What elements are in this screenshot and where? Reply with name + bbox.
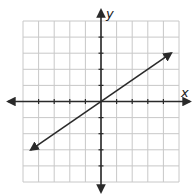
x-axis-label: x [181,85,189,100]
coordinate-plane [0,0,196,195]
y-axis-label: y [106,6,114,21]
